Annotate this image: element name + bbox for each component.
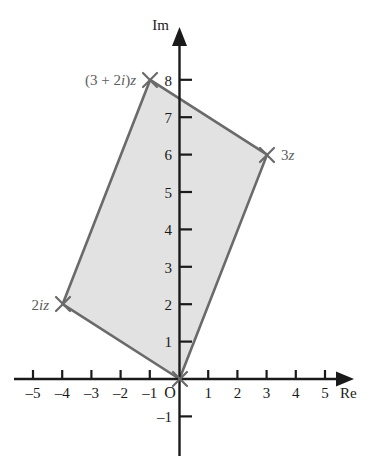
point-label-3z: 3z — [281, 147, 295, 163]
real-axis-tick-labels: –5 –4 –3 –2 –1 1 2 3 4 5 — [25, 385, 329, 401]
y-tick-label-2: 2 — [165, 297, 173, 313]
y-tick-label-3: 3 — [165, 260, 173, 276]
point-label-2iz: 2iz — [31, 297, 49, 313]
x-tick-label-2: 2 — [234, 385, 242, 401]
real-axis-label: Re — [340, 385, 357, 401]
x-tick-label--5: –5 — [25, 385, 41, 401]
x-tick-label-3: 3 — [263, 385, 271, 401]
x-tick-label-4: 4 — [292, 385, 300, 401]
x-tick-label--3: –3 — [83, 385, 99, 401]
x-tick-label--2: –2 — [112, 385, 128, 401]
point-label-3-plus-2i-z: (3 + 2i)z — [85, 72, 136, 89]
origin-label: O — [164, 384, 176, 401]
y-tick-label-5: 5 — [165, 185, 173, 201]
imaginary-axis-arrowhead — [172, 27, 187, 46]
y-tick-label-7: 7 — [165, 110, 173, 126]
imaginary-axis-label: Im — [152, 17, 169, 33]
x-tick-label--4: –4 — [54, 385, 71, 401]
y-tick-label-1: 1 — [165, 334, 173, 350]
y-tick-label-4: 4 — [165, 222, 173, 238]
y-tick-label-6: 6 — [165, 147, 173, 163]
argand-diagram-figure: –5 –4 –3 –2 –1 1 2 3 4 5 8 7 6 5 4 3 2 1… — [0, 0, 371, 461]
argand-diagram-canvas: –5 –4 –3 –2 –1 1 2 3 4 5 8 7 6 5 4 3 2 1… — [0, 0, 371, 461]
y-tick-label--1: –1 — [156, 409, 172, 425]
y-tick-label-8: 8 — [165, 73, 173, 89]
x-tick-label-5: 5 — [321, 385, 329, 401]
x-tick-label--1: –1 — [141, 385, 157, 401]
x-tick-label-1: 1 — [204, 385, 212, 401]
